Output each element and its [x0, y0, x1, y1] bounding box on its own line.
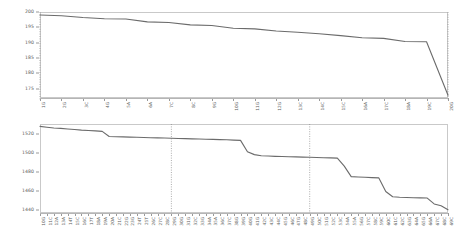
x-axis-tick-label: 36C	[221, 217, 225, 225]
x-axis-tick-label: 17C	[385, 102, 389, 110]
x-axis-tick-label: 58C	[374, 217, 378, 225]
chart-panel-bottom: 14401460148015001520 10G11C12A13A14T15C1…	[0, 116, 454, 232]
x-axis-tick-label: 1G	[42, 102, 46, 108]
plot-area-bottom: 14401460148015001520 10G11C12A13A14T15C1…	[0, 116, 454, 232]
x-axis-baseline	[40, 98, 448, 99]
x-axis-tick-label: 10G	[42, 217, 46, 226]
plot-area-top: 175180185190195200 1G2G3C4G5A6A7C8C9G10G…	[0, 0, 454, 116]
x-axis-tick-label: 35A	[214, 217, 218, 225]
x-axis-tick-label: 32C	[194, 217, 198, 225]
x-axis-tick-label: 50C	[318, 217, 322, 225]
x-axis-tick-label: 56G	[360, 217, 364, 226]
x-axis-tick-label: 34A	[208, 217, 212, 225]
x-axis-tick-label: 69C	[450, 217, 454, 225]
x-axis-tick-label: 60C	[387, 217, 391, 225]
x-axis-tick-label: 15C	[76, 217, 80, 225]
x-axis-tick-label: 25T	[145, 217, 149, 225]
x-axis-tick-label: 39G	[242, 217, 246, 226]
x-axis-tick-label: 31G	[187, 217, 191, 226]
x-axis-tick-label: 30G	[180, 217, 184, 226]
x-axis-tick-label: 23G	[131, 217, 135, 226]
x-axis-baseline	[40, 213, 448, 214]
x-axis-tick-label: 15C	[342, 102, 346, 110]
x-axis-tick-label: 18A	[97, 217, 101, 225]
x-axis-tick-label: 11C	[49, 217, 53, 225]
x-axis-tick-label: 21C	[118, 217, 122, 225]
x-axis-tick-label: 19A	[104, 217, 108, 225]
x-axis-tick-label: 42C	[263, 217, 267, 225]
x-axis-tick-label: 20A	[111, 217, 115, 225]
x-axis-tick-label: 67C	[436, 217, 440, 225]
data-series-line	[40, 126, 448, 209]
x-axis-tick-label: 47G	[297, 217, 301, 226]
x-axis-tick-label: 17T	[90, 217, 94, 225]
x-axis-tick-label: 2G	[63, 102, 67, 108]
x-axis-tick-label: 22G	[125, 217, 129, 226]
x-axis-tick-label: 55A	[353, 217, 357, 225]
x-axis-tick-label: 53C	[339, 217, 343, 225]
x-axis-tick-label: 51G	[325, 217, 329, 226]
x-axis-tick-label: 3C	[85, 102, 89, 108]
x-axis-tick-label: 28C	[166, 217, 170, 225]
x-axis-tick-label: 29G	[173, 217, 177, 226]
x-axis-tick-label: 49G	[311, 217, 315, 226]
x-axis-tick-label: 12G	[278, 102, 282, 111]
x-axis-tick-label: 66A	[429, 217, 433, 225]
x-axis-tick-label: 16C	[83, 217, 87, 225]
x-axis-tick-mark	[448, 213, 449, 216]
x-axis-tick-label: 63G	[408, 217, 412, 226]
x-axis-tick-label: 44C	[277, 217, 281, 225]
x-axis-tick-label: 13A	[62, 217, 66, 225]
x-axis-tick-label: 20G	[450, 102, 454, 111]
x-axis-tick-label: 54A	[346, 217, 350, 225]
x-axis-tick-label: 27C	[159, 217, 163, 225]
x-axis-tick-label: 68C	[443, 217, 447, 225]
x-axis-tick-label: 5A	[127, 102, 131, 108]
x-axis-tick-label: 37C	[228, 217, 232, 225]
x-axis-tick-label: 33G	[201, 217, 205, 226]
x-axis-tick-label: 19C	[428, 102, 432, 110]
x-axis-tick-label: 38G	[235, 217, 239, 226]
x-axis-tick-mark	[448, 98, 449, 101]
x-axis-tick-label: 10G	[235, 102, 239, 111]
x-axis-tick-label: 61C	[394, 217, 398, 225]
chart-panel-top: 175180185190195200 1G2G3C4G5A6A7C8C9G10G…	[0, 0, 454, 116]
x-axis-tick-label: 6A	[149, 102, 153, 108]
x-axis-tick-label: 26C	[152, 217, 156, 225]
x-axis-tick-label: 18A	[407, 102, 411, 110]
x-axis-tick-label: 59C	[380, 217, 384, 225]
x-axis-tick-label: 64A	[415, 217, 419, 225]
x-axis-tick-label: 48C	[304, 217, 308, 225]
x-axis-tick-label: 11G	[256, 102, 260, 111]
x-axis-tick-label: 46C	[291, 217, 295, 225]
x-axis-tick-label: 43C	[270, 217, 274, 225]
x-axis-tick-label: 4G	[106, 102, 110, 108]
x-axis-tick-label: 14C	[321, 102, 325, 110]
x-axis-tick-label: 57C	[367, 217, 371, 225]
data-series-line	[40, 15, 448, 95]
x-axis-tick-label: 40G	[249, 217, 253, 226]
x-axis-tick-label: 52C	[332, 217, 336, 225]
x-axis-tick-label: 14T	[69, 217, 73, 225]
x-axis-tick-label: 16A	[364, 102, 368, 110]
x-axis-tick-label: 41G	[256, 217, 260, 226]
x-axis-tick-label: 7C	[170, 102, 174, 108]
x-axis-tick-label: 65G	[422, 217, 426, 226]
figure-canvas: 175180185190195200 1G2G3C4G5A6A7C8C9G10G…	[0, 0, 454, 232]
x-axis-tick-label: 8C	[192, 102, 196, 108]
x-axis-tick-label: 9G	[213, 102, 217, 108]
x-axis-bottom: 10G11C12A13A14T15C16C17T18A19A20A21C22G2…	[0, 213, 454, 232]
x-axis-tick-label: 62C	[401, 217, 405, 225]
x-axis-tick-label: 12A	[55, 217, 59, 225]
x-axis-tick-label: 24T	[138, 217, 142, 225]
x-axis-tick-label: 13C	[299, 102, 303, 110]
x-axis-tick-label: 45G	[284, 217, 288, 226]
